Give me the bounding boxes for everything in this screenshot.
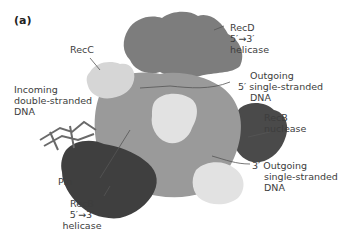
recbcd-structure-figure: (a) RecC RecD 5′→3′ helicase Incoming do… xyxy=(0,0,346,240)
label-incoming-line3: DNA xyxy=(14,106,92,117)
label-recb-helicase: RecB 5′→3′ helicase xyxy=(62,198,102,231)
label-recc: RecC xyxy=(70,44,94,55)
panel-label: (a) xyxy=(14,14,31,27)
label-incoming-line1: Incoming xyxy=(14,84,92,95)
label-recd-line2: 5′→3′ xyxy=(230,33,269,44)
label-out5-line2: 5′ single-stranded xyxy=(238,81,323,92)
label-recb-nuc-line1: RecB xyxy=(264,112,306,123)
label-recb-hel-line1: RecB xyxy=(62,198,102,209)
label-out3-line3: DNA xyxy=(252,182,338,193)
label-recd-line1: RecD xyxy=(230,22,269,33)
label-incoming-line2: double-stranded xyxy=(14,95,92,106)
label-out5-line1: Outgoing xyxy=(238,70,323,81)
label-out3-line1: 3′ Outgoing xyxy=(252,160,338,171)
label-out5-line3: DNA xyxy=(238,92,323,103)
light-lower-blob xyxy=(193,162,244,204)
label-pin: Pin xyxy=(58,176,72,187)
label-recb-nuc-line2: nuclease xyxy=(264,123,306,134)
label-incoming-dna: Incoming double-stranded DNA xyxy=(14,84,92,117)
label-recd-line3: helicase xyxy=(230,44,269,55)
label-out3-line2: single-stranded xyxy=(252,171,338,182)
label-recd: RecD 5′→3′ helicase xyxy=(230,22,269,55)
label-recb-hel-line3: helicase xyxy=(62,220,102,231)
recd-subunit-shape xyxy=(124,12,243,78)
label-recb-hel-line2: 5′→3′ xyxy=(62,209,102,220)
label-outgoing-5: Outgoing 5′ single-stranded DNA xyxy=(238,70,323,103)
label-recb-nuclease: RecB nuclease xyxy=(264,112,306,134)
label-outgoing-3: 3′ Outgoing single-stranded DNA xyxy=(252,160,338,193)
